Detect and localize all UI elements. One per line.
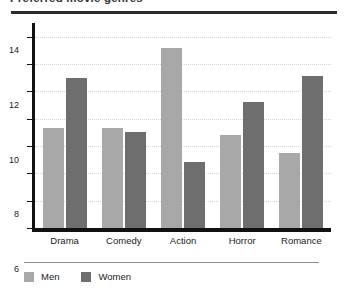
bar-women-horror[interactable] (243, 102, 264, 228)
title-divider (11, 11, 337, 14)
legend-divider (24, 262, 319, 263)
bar-men-drama[interactable] (43, 128, 64, 228)
bar-women-action[interactable] (184, 162, 205, 228)
chart-title-clipped: Preferred movie genres (10, 0, 270, 5)
plot-area: 02468101214 DramaComedyActionHorrorRoman… (32, 23, 331, 231)
legend-label: Men (41, 271, 59, 282)
bar-group (272, 23, 331, 228)
chart-figure: Preferred movie genres 02468101214 Drama… (0, 0, 347, 293)
legend-item-women[interactable]: Women (81, 271, 131, 282)
x-axis-label-romance: Romance (281, 235, 322, 246)
x-axis-spine (32, 228, 331, 232)
bar-men-comedy[interactable] (102, 128, 123, 228)
chart-legend: MenWomen (24, 271, 131, 282)
x-axis-label-drama: Drama (50, 235, 79, 246)
bar-groups (35, 23, 331, 228)
bar-women-comedy[interactable] (125, 132, 146, 228)
legend-swatch-men (24, 272, 34, 282)
legend-label: Women (98, 271, 131, 282)
bar-group (35, 23, 94, 228)
bar-group (213, 23, 272, 228)
bar-women-drama[interactable] (66, 78, 87, 228)
y-axis-tick-label: 6 (14, 264, 19, 274)
bar-men-horror[interactable] (220, 135, 241, 228)
x-axis-label-horror: Horror (229, 235, 256, 246)
y-axis-tick-label: 8 (14, 209, 19, 219)
page-title: Preferred movie genres (10, 0, 270, 5)
legend-swatch-women (81, 272, 91, 282)
bar-men-action[interactable] (161, 48, 182, 228)
bar-men-romance[interactable] (279, 153, 300, 228)
y-axis-tick-label: 14 (9, 45, 19, 55)
bar-group (153, 23, 212, 228)
y-axis-tick-label: 10 (9, 155, 19, 165)
x-axis-label-action: Action (170, 235, 196, 246)
x-axis-label-comedy: Comedy (106, 235, 141, 246)
legend-item-men[interactable]: Men (24, 271, 59, 282)
bar-group (94, 23, 153, 228)
bar-women-romance[interactable] (302, 76, 323, 228)
y-axis-tick-label: 12 (9, 100, 19, 110)
